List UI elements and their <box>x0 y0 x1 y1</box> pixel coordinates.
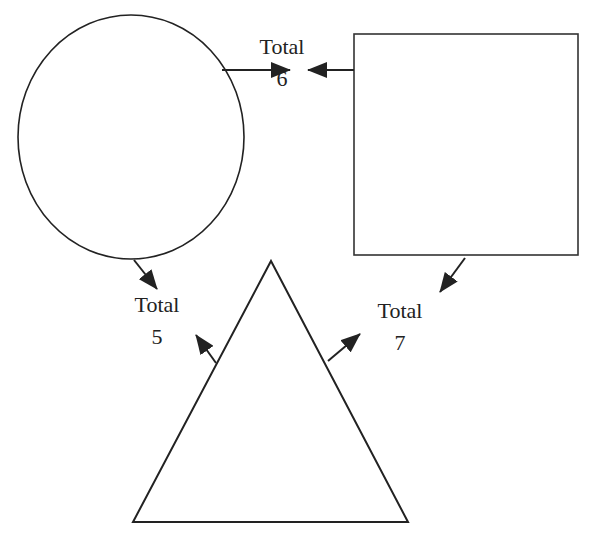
label-value: 5 <box>117 321 197 353</box>
arrow-triangle-to-total7 <box>328 334 360 361</box>
label-title: Total <box>360 295 440 327</box>
arrow-square-to-total7 <box>440 258 465 292</box>
label-total-5: Total 5 <box>117 289 197 353</box>
label-total-6: Total 6 <box>242 31 322 95</box>
circle-shape <box>18 15 244 259</box>
label-value: 7 <box>360 327 440 359</box>
arrow-triangle-to-total5 <box>196 335 216 363</box>
arrow-circle-to-total5 <box>134 260 157 289</box>
label-title: Total <box>242 31 322 63</box>
diagram-canvas: Total 6 Total 5 Total 7 <box>0 0 596 541</box>
square-shape <box>354 34 578 255</box>
label-total-7: Total 7 <box>360 295 440 359</box>
label-value: 6 <box>242 63 322 95</box>
label-title: Total <box>117 289 197 321</box>
